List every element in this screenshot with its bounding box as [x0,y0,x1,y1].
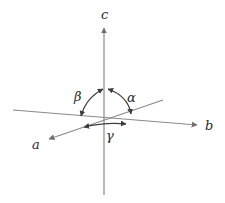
angle-label-beta: β [74,90,82,103]
angle-label-gamma: γ [106,129,114,142]
angle-label-alpha: α [127,91,136,104]
axis-label-a: a [32,138,40,151]
axis-line-b [13,110,197,125]
angle-arc-gamma [84,123,126,127]
angle-arc-beta [81,89,103,116]
axis-label-c: c [101,8,108,21]
axis-label-b: b [205,119,213,132]
axes-diagram-svg [0,0,225,203]
crystal-axes-figure: c b a α β γ [0,0,225,203]
